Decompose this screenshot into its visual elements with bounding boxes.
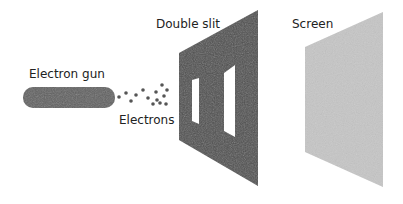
electron-gun [23, 87, 115, 108]
electrons [117, 83, 169, 106]
double-slit-panel [179, 10, 258, 186]
detection-screen [305, 12, 383, 187]
screen-label: Screen [292, 17, 333, 31]
electron-gun-label: Electron gun [29, 67, 105, 81]
double-slit-label: Double slit [156, 17, 220, 31]
electrons-label: Electrons [119, 113, 174, 127]
